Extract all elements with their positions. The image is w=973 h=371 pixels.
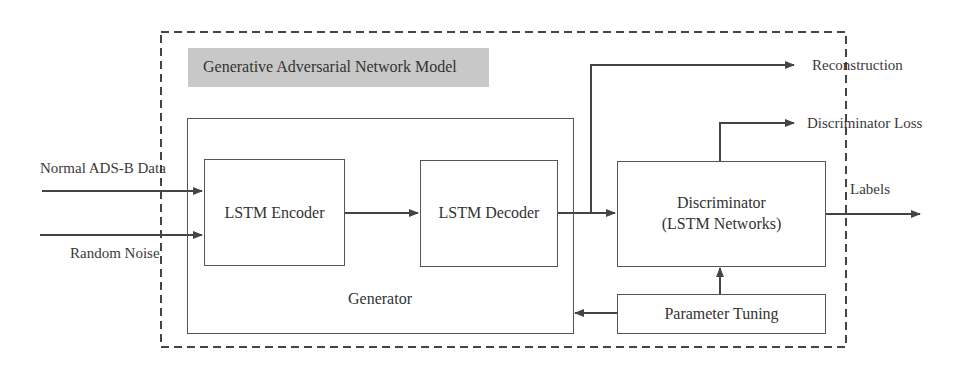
lstm-encoder-label: LSTM Encoder <box>204 203 345 223</box>
output-label-discriminator-loss: Discriminator Loss <box>807 115 922 132</box>
discriminator-loss-arrow <box>720 123 794 161</box>
input-label-noise: Random Noise <box>70 245 160 262</box>
parameter-tuning-label: Parameter Tuning <box>617 304 826 324</box>
discriminator-label-line2: (LSTM Networks) <box>617 214 826 234</box>
output-label-labels: Labels <box>850 181 890 198</box>
generator-label: Generator <box>300 289 460 309</box>
output-label-reconstruction: Reconstruction <box>812 57 903 74</box>
discriminator-label-line1: Discriminator <box>617 193 826 213</box>
lstm-decoder-label: LSTM Decoder <box>420 203 558 223</box>
input-label-ads-b: Normal ADS-B Data <box>40 160 166 177</box>
model-title: Generative Adversarial Network Model <box>203 58 457 76</box>
